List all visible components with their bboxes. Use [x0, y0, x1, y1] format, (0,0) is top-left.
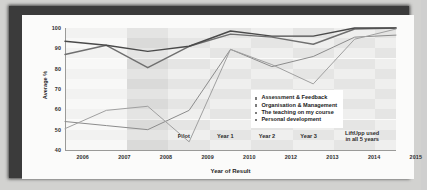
x-axis-title: Year of Result — [65, 168, 396, 174]
y-tick-label: 50 — [31, 127, 61, 133]
plot-area: 100 90 80 70 60 50 40 Average % 2006 200… — [65, 28, 396, 150]
y-tick-label: 40 — [31, 147, 61, 153]
image-frame-border: 100 90 80 70 60 50 40 Average % 2006 200… — [9, 6, 409, 178]
x-tick-label: 2009 — [188, 154, 228, 160]
series-lines — [65, 28, 396, 150]
x-tick-label: 2010 — [229, 154, 269, 160]
x-tick-label: 2014 — [354, 154, 394, 160]
y-tick-label: 100 — [31, 25, 61, 31]
legend: Assessment & Feedback Organisation & Man… — [251, 90, 343, 128]
legend-label: Organisation & Management — [261, 103, 337, 109]
legend-marker-icon — [255, 112, 257, 114]
legend-marker-icon — [255, 104, 257, 106]
x-tick-label: 2006 — [63, 154, 103, 160]
legend-item[interactable]: Personal development — [255, 117, 337, 123]
x-tick-label: 2015 — [396, 154, 427, 160]
x-tick-label: 2008 — [146, 154, 186, 160]
y-tick-label: 90 — [31, 45, 61, 51]
legend-label: Personal development — [261, 117, 321, 123]
chart-paper: 100 90 80 70 60 50 40 Average % 2006 200… — [22, 15, 414, 179]
y-axis-title: Average % — [42, 71, 48, 99]
legend-marker-icon — [255, 119, 257, 121]
legend-item[interactable]: The teaching on my course — [255, 110, 337, 116]
y-tick-label: 60 — [31, 106, 61, 112]
x-tick-label: 2007 — [104, 154, 144, 160]
legend-label: The teaching on my course — [261, 110, 333, 116]
legend-label: Assessment & Feedback — [261, 95, 327, 101]
x-tick-label: 2012 — [271, 154, 311, 160]
chart-canvas: 100 90 80 70 60 50 40 Average % 2006 200… — [22, 15, 414, 179]
legend-marker-icon — [255, 97, 257, 99]
legend-item[interactable]: Assessment & Feedback — [255, 95, 337, 101]
x-axis — [65, 150, 396, 151]
legend-item[interactable]: Organisation & Management — [255, 103, 337, 109]
x-tick-label: 2013 — [313, 154, 353, 160]
